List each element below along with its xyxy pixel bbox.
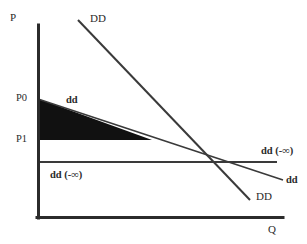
DD-curve: [78, 20, 250, 200]
chart-canvas: [0, 0, 307, 244]
price-label-p0: P0: [16, 93, 27, 104]
economics-demand-chart: P Q P0 P1 dd dd DD DD dd (-∞) dd (-∞): [0, 0, 307, 244]
DD-curve-label-top: DD: [90, 13, 106, 24]
y-axis-label: P: [10, 12, 16, 23]
dd-curve-label-right: dd: [286, 175, 298, 186]
dd-curve-label-upper: dd: [66, 95, 78, 106]
price-label-p1: P1: [16, 134, 27, 145]
x-axis-label: Q: [268, 224, 276, 235]
dd-infinity-label-right: dd (-∞): [261, 146, 293, 157]
DD-curve-label-bottom: DD: [256, 191, 272, 202]
dd-infinity-label-left: dd (-∞): [50, 170, 82, 181]
